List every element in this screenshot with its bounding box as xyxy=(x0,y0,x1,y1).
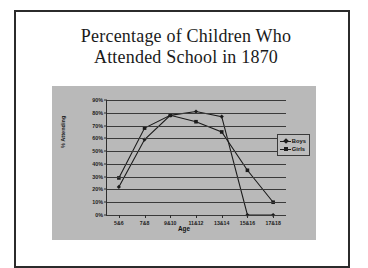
x-tick-mark xyxy=(273,215,274,218)
y-tick-label: 50% xyxy=(92,148,103,154)
page-title-line-2: Attended School in 1870 xyxy=(36,47,336,68)
scanned-page-frame: Percentage of Children Who Attended Scho… xyxy=(14,10,350,268)
y-tick-mark xyxy=(104,100,107,101)
data-point-boys xyxy=(117,185,121,189)
gridline xyxy=(106,100,286,101)
page-title-line-1: Percentage of Children Who xyxy=(36,26,336,47)
square-marker-icon xyxy=(280,146,291,153)
x-tick-mark xyxy=(222,215,223,218)
gridline xyxy=(106,151,286,152)
x-tick-mark xyxy=(119,215,120,218)
gridline xyxy=(106,202,286,203)
y-tick-label: 0% xyxy=(95,212,103,218)
legend-label-girls: Girls xyxy=(292,146,305,152)
x-tick-mark xyxy=(196,215,197,218)
y-tick-label: 30% xyxy=(92,174,103,180)
data-point-girls xyxy=(194,120,198,124)
y-tick-label: 40% xyxy=(92,161,103,167)
legend-item-girls: Girls xyxy=(280,145,306,153)
diamond-marker-icon xyxy=(280,138,291,145)
y-tick-mark xyxy=(104,125,107,126)
y-tick-label: 20% xyxy=(92,186,103,192)
legend-label-boys: Boys xyxy=(292,138,306,144)
data-point-girls xyxy=(143,126,147,130)
y-tick-mark xyxy=(104,163,107,164)
y-tick-mark xyxy=(104,151,107,152)
y-tick-mark xyxy=(104,112,107,113)
gridline xyxy=(106,164,286,165)
legend-item-boys: Boys xyxy=(280,137,306,145)
y-tick-mark xyxy=(104,138,107,139)
gridline xyxy=(106,138,286,139)
x-tick-mark xyxy=(145,215,146,218)
y-axis-title: % Attending xyxy=(60,116,66,148)
y-tick-label: 60% xyxy=(92,135,103,141)
gridline xyxy=(106,189,286,190)
data-point-girls xyxy=(246,168,250,172)
y-tick-label: 80% xyxy=(92,110,103,116)
x-tick-mark xyxy=(170,215,171,218)
y-tick-mark xyxy=(104,202,107,203)
y-tick-mark xyxy=(104,176,107,177)
data-point-boys xyxy=(220,115,224,119)
gridline xyxy=(106,177,286,178)
y-tick-label: 10% xyxy=(92,199,103,205)
chart-canvas: % Attending 90%80%70%60%50%40%30%20%10%0… xyxy=(52,86,316,240)
y-tick-label: 90% xyxy=(92,97,103,103)
series-lines xyxy=(106,100,286,215)
chart-legend: Boys Girls xyxy=(277,134,310,156)
y-tick-mark xyxy=(104,215,107,216)
plot-area: 90%80%70%60%50%40%30%20%10%0% 5&67&89&10… xyxy=(106,100,286,215)
gridline xyxy=(106,126,286,127)
y-axis-line xyxy=(106,100,107,215)
y-tick-mark xyxy=(104,189,107,190)
page-title: Percentage of Children Who Attended Scho… xyxy=(36,26,336,68)
data-point-girls xyxy=(168,114,172,118)
data-point-girls xyxy=(220,130,224,134)
x-tick-mark xyxy=(247,215,248,218)
y-tick-label: 70% xyxy=(92,123,103,129)
x-axis-title: Age xyxy=(52,225,316,232)
gridline xyxy=(106,113,286,114)
